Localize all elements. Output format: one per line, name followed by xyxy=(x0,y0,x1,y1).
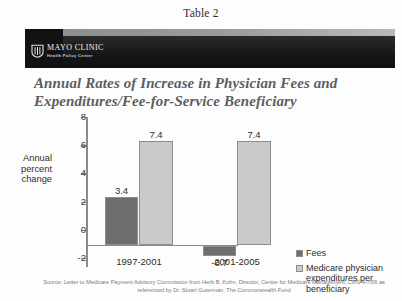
logo-text-block: MAYO CLINIC Health Policy Center xyxy=(47,44,104,58)
y-tick-label-8: 8 xyxy=(64,111,86,122)
chart-title: Annual Rates of Increase in Physician Fe… xyxy=(34,74,384,110)
banner-top-strip xyxy=(63,29,395,36)
bar-fees-1997-2001 xyxy=(105,197,138,245)
logo-title: MAYO CLINIC xyxy=(47,44,104,52)
table-caption: Table 2 xyxy=(0,7,402,19)
category-label-2001-2005: 2001-2005 xyxy=(197,256,277,267)
bar-label-fees-1997-2001: 3.4 xyxy=(105,185,138,196)
category-label-1997-2001: 1997-2001 xyxy=(99,256,179,267)
mayo-clinic-logo: MAYO CLINIC Health Policy Center xyxy=(31,44,104,58)
legend-label-fees: Fees xyxy=(306,248,326,258)
bar-label-medicare-1997-2001: 7.4 xyxy=(139,129,173,140)
y-axis-title: Annual percent change xyxy=(8,153,52,185)
y-tick-label-2: 2 xyxy=(64,196,86,207)
bar-medicare-1997-2001 xyxy=(139,141,173,245)
legend-swatch-fees xyxy=(296,250,303,257)
bar-chart: Annual percent change 8 6 4 2 0 -2 3.4 7… xyxy=(0,108,402,273)
y-tick-label-4: 4 xyxy=(64,167,86,178)
y-tick-label-neg2: -2 xyxy=(64,252,86,263)
table-figure-page: Table 2 MAYO CLINIC Health Policy Center… xyxy=(0,0,402,301)
y-tick-label-0: 0 xyxy=(64,224,86,235)
bar-fees-2001-2005 xyxy=(203,246,236,256)
logo-subtitle: Health Policy Center xyxy=(47,54,104,58)
bar-medicare-2001-2005 xyxy=(237,141,271,245)
legend-swatch-medicare xyxy=(296,265,303,272)
legend-item-fees: Fees xyxy=(296,248,396,258)
bar-label-medicare-2001-2005: 7.4 xyxy=(237,129,271,140)
source-note: Source: Letter to Medicare Payment Advis… xyxy=(34,279,394,294)
mayo-shield-icon xyxy=(31,44,44,58)
y-tick-label-6: 6 xyxy=(64,139,86,150)
